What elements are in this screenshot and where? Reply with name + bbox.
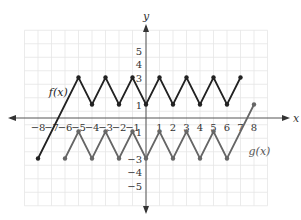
y-axis-label: y xyxy=(142,10,150,23)
svg-text:5: 5 xyxy=(136,46,142,57)
svg-text:−5: −5 xyxy=(127,181,142,192)
svg-text:4: 4 xyxy=(136,59,142,70)
svg-text:1: 1 xyxy=(136,100,142,111)
svg-text:3: 3 xyxy=(136,73,142,84)
svg-text:−4: −4 xyxy=(127,167,142,178)
svg-text:2: 2 xyxy=(170,122,176,133)
g-series-label: g(x) xyxy=(249,145,271,158)
svg-text:6: 6 xyxy=(224,122,230,133)
svg-text:8: 8 xyxy=(251,122,257,133)
svg-text:−3: −3 xyxy=(127,154,142,165)
x-axis-label: x xyxy=(293,112,300,125)
svg-text:1: 1 xyxy=(136,127,142,138)
svg-text:4: 4 xyxy=(197,122,203,133)
function-graph: −8−7−6−5−4−3−2−112345678−5−4−311345 x y … xyxy=(0,0,301,220)
f-series-label: f(x) xyxy=(48,86,68,99)
